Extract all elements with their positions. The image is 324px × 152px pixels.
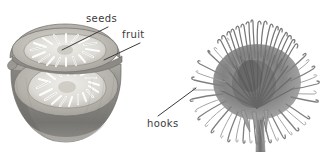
- leader-line-hooks: [158, 88, 196, 116]
- illustration-layer: [0, 0, 324, 152]
- burr-core-deep-shadow: [238, 60, 262, 92]
- burr-illustration: [190, 20, 319, 152]
- label-seeds: seeds: [86, 14, 117, 24]
- fruit-illustration: [8, 24, 122, 142]
- label-fruit: fruit: [122, 30, 145, 40]
- botanical-figure: seeds fruit hooks: [0, 0, 324, 152]
- label-hooks: hooks: [147, 119, 179, 129]
- fruit-lower-core: [58, 81, 76, 93]
- fruit-upper-core: [57, 45, 73, 55]
